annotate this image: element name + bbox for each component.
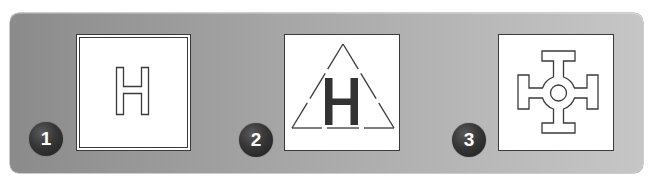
number-badge-2: 2 bbox=[239, 123, 273, 157]
badge-2-label: 2 bbox=[251, 129, 262, 150]
sign-3-cross bbox=[498, 34, 614, 151]
dashed-triangle-h-icon bbox=[285, 35, 401, 152]
badge-1-label: 1 bbox=[41, 128, 52, 149]
number-badge-1: 1 bbox=[29, 122, 63, 156]
sign-2-triangle-h bbox=[284, 34, 400, 151]
sign-1-outlined-h bbox=[76, 34, 191, 151]
outlined-h-icon bbox=[77, 35, 192, 152]
cross-with-circle-icon bbox=[499, 35, 615, 152]
number-badge-3: 3 bbox=[452, 123, 486, 157]
badge-3-label: 3 bbox=[464, 129, 475, 150]
